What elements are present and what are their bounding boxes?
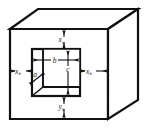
cube-diagram: xa xb xb yb xyxy=(0,0,145,130)
cube-right-face xyxy=(108,9,138,119)
recess-back-wall xyxy=(43,49,80,87)
figure-container: xa xb xb yb xyxy=(0,0,145,130)
dimension-label-depth: a xyxy=(33,70,37,79)
dimension-label-opening-width: b xyxy=(53,56,57,65)
